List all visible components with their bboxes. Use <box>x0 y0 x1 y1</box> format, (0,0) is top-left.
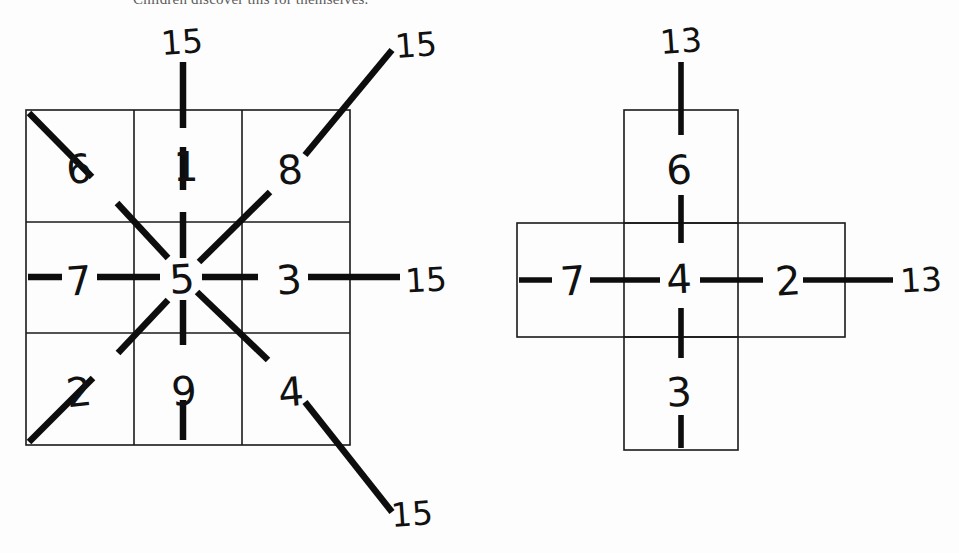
cell-middle-right-value: 3 <box>275 256 304 304</box>
cell-top-center-value: 1 <box>173 144 198 190</box>
cross-sum-horizontal-label: 13 <box>899 259 943 300</box>
cross-cell-left-value: 7 <box>559 257 588 305</box>
cross-sum-vertical-label: 13 <box>659 20 704 62</box>
cross-cell-center-value: 4 <box>665 255 693 302</box>
sum-main-diagonal-label: 15 <box>390 493 435 535</box>
sum-top-column-label: 15 <box>160 21 205 63</box>
magic-square-figures-svg: 6 1 8 7 5 3 2 9 4 15 15 15 15 <box>0 0 959 553</box>
sum-middle-row-label: 15 <box>404 259 448 300</box>
magic-cross-group: 6 7 4 2 3 13 13 <box>517 20 943 450</box>
magic-square-3x3-group: 6 1 8 7 5 3 2 9 4 15 15 15 15 <box>26 21 448 535</box>
cell-middle-center-value: 5 <box>168 255 196 302</box>
cross-cell-right-value: 2 <box>774 257 803 305</box>
cell-top-right-value: 8 <box>275 146 304 194</box>
cell-top-left-value: 6 <box>64 145 94 193</box>
cross-cell-top-value: 6 <box>664 146 693 194</box>
cell-bottom-right-value: 4 <box>276 368 305 416</box>
cell-middle-left-value: 7 <box>65 257 94 305</box>
cell-bottom-center-value: 9 <box>170 367 198 414</box>
cross-cell-bottom-value: 3 <box>665 368 693 415</box>
figure-page: Children discover this for themselves. <box>0 0 959 553</box>
cell-bottom-left-value: 2 <box>64 368 94 416</box>
sum-anti-diagonal-label: 15 <box>394 24 439 66</box>
